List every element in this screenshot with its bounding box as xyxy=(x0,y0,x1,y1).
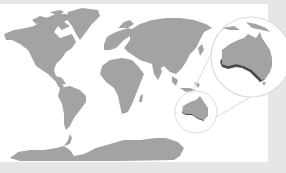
japan xyxy=(198,44,204,56)
south-america xyxy=(58,86,86,130)
connector-line-bottom xyxy=(215,96,252,118)
antarctic-peninsula xyxy=(64,134,72,146)
madagascar xyxy=(139,94,143,102)
antarctica xyxy=(10,138,184,161)
southeast-asia xyxy=(172,76,200,92)
world-map xyxy=(0,0,286,173)
north-america xyxy=(4,14,76,84)
africa xyxy=(100,58,144,114)
